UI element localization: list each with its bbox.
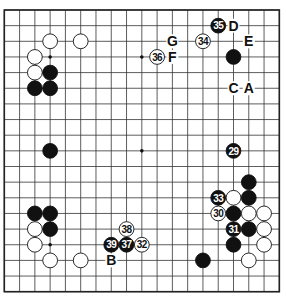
letter-mark-b: B (106, 252, 116, 268)
black-stone (27, 206, 42, 221)
black-stone (241, 190, 256, 205)
black-stone (241, 175, 256, 190)
move-number-35: 35 (213, 20, 224, 31)
white-stone (257, 237, 272, 252)
letter-mark-d: D (228, 18, 238, 34)
stones: 2930313233343536373839 (27, 18, 271, 268)
star-point (140, 149, 144, 153)
star-point (48, 243, 52, 247)
move-number-39: 39 (106, 239, 117, 250)
black-stone (43, 206, 58, 221)
black-stone (43, 65, 58, 80)
move-number-31: 31 (229, 224, 240, 235)
black-stone (43, 81, 58, 96)
go-board: ABCDEFG 2930313233343536373839 (0, 0, 286, 299)
white-stone (27, 237, 42, 252)
letter-mark-a: A (244, 80, 254, 96)
black-stone (241, 222, 256, 237)
white-stone (257, 206, 272, 221)
move-number-36: 36 (152, 52, 163, 63)
black-stone (196, 253, 211, 268)
black-stone (27, 81, 42, 96)
move-number-34: 34 (198, 36, 209, 47)
black-stone (43, 222, 58, 237)
white-stone (27, 50, 42, 65)
letter-mark-g: G (167, 33, 178, 49)
star-point (140, 55, 144, 59)
move-number-38: 38 (122, 224, 133, 235)
white-stone (73, 253, 88, 268)
white-stone (241, 206, 256, 221)
black-stone (226, 50, 241, 65)
white-stone (226, 190, 241, 205)
move-number-33: 33 (213, 193, 224, 204)
white-stone (27, 65, 42, 80)
black-stone (43, 143, 58, 158)
black-stone (226, 237, 241, 252)
black-stone (226, 206, 241, 221)
white-stone (73, 34, 88, 49)
white-stone (43, 34, 58, 49)
white-stone (241, 253, 256, 268)
move-number-29: 29 (229, 146, 240, 157)
white-stone (27, 222, 42, 237)
letter-mark-e: E (244, 33, 253, 49)
star-point (48, 55, 52, 59)
white-stone (43, 253, 58, 268)
move-number-32: 32 (137, 239, 148, 250)
move-number-37: 37 (122, 239, 133, 250)
move-number-30: 30 (213, 208, 224, 219)
white-stone (257, 222, 272, 237)
letter-mark-c: C (228, 80, 238, 96)
letter-mark-f: F (168, 49, 177, 65)
